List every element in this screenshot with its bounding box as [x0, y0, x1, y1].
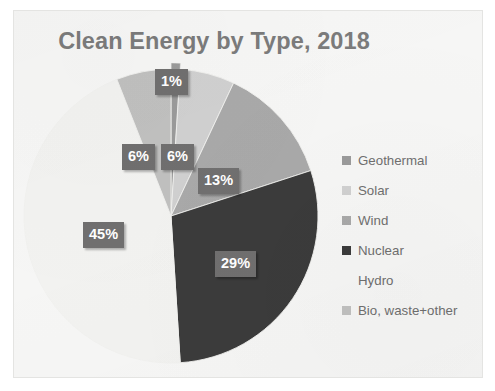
data-label-hydro: 45% [83, 222, 124, 248]
legend-swatch-icon [342, 216, 351, 225]
pie-slice-group [24, 63, 318, 363]
legend-label: Geothermal [358, 153, 427, 168]
legend-item[interactable]: Bio, waste+other [342, 295, 482, 325]
slide-canvas: Clean Energy by Type, 2018 1% 6% 6% 13% … [13, 10, 483, 378]
legend-label: Nuclear [358, 243, 404, 258]
legend-item[interactable]: Hydro [342, 265, 482, 295]
legend-label: Solar [358, 183, 389, 198]
legend-swatch-icon [342, 276, 351, 285]
legend-label: Bio, waste+other [358, 303, 457, 318]
legend-label: Hydro [358, 273, 393, 288]
data-label-bio: 6% [122, 144, 155, 170]
legend-swatch-icon [342, 306, 351, 315]
legend-swatch-icon [342, 156, 351, 165]
legend-swatch-icon [342, 246, 351, 255]
data-label-nuclear: 29% [215, 251, 256, 277]
legend-item[interactable]: Wind [342, 205, 482, 235]
legend-swatch-icon [342, 186, 351, 195]
data-label-geothermal: 1% [155, 69, 188, 95]
legend-label: Wind [358, 213, 388, 228]
data-label-solar: 6% [161, 144, 194, 170]
legend-item[interactable]: Nuclear [342, 235, 482, 265]
legend-item[interactable]: Geothermal [342, 145, 482, 175]
legend-item[interactable]: Solar [342, 175, 482, 205]
data-label-wind: 13% [198, 168, 239, 194]
chart-legend: GeothermalSolarWindNuclearHydroBio, wast… [342, 145, 482, 325]
